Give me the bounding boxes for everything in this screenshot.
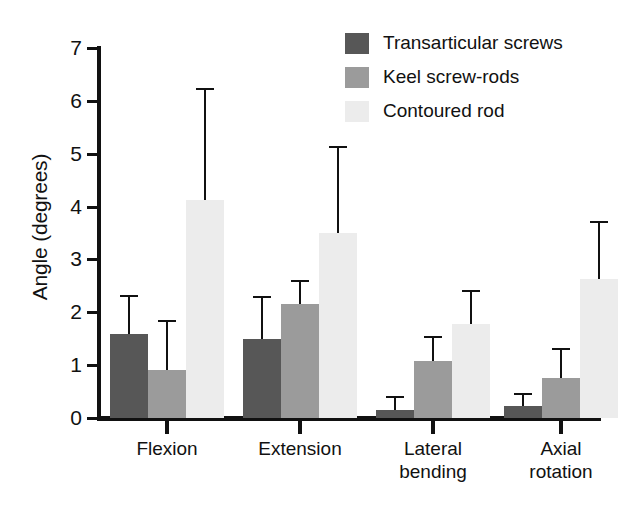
y-tick-mark bbox=[87, 206, 98, 209]
x-tick-mark bbox=[431, 420, 435, 434]
bar bbox=[281, 304, 319, 418]
x-tick-mark bbox=[559, 420, 563, 434]
error-bar-cap bbox=[386, 396, 404, 398]
x-category-label: Lateral bending bbox=[363, 437, 503, 483]
legend-label: Keel screw-rods bbox=[383, 66, 519, 88]
bar bbox=[452, 324, 490, 418]
y-tick-label: 2 bbox=[42, 301, 82, 322]
y-tick-label: 5 bbox=[42, 143, 82, 164]
error-bar-cap bbox=[291, 280, 309, 282]
error-bar-cap bbox=[552, 348, 570, 350]
bar bbox=[504, 406, 542, 418]
legend-item: Transarticular screws bbox=[345, 28, 563, 58]
legend-swatch bbox=[345, 67, 369, 88]
error-bar-stem bbox=[394, 396, 396, 410]
bar bbox=[414, 361, 452, 418]
y-tick-label: 6 bbox=[42, 90, 82, 111]
error-bar-cap bbox=[120, 295, 138, 297]
legend-item: Contoured rod bbox=[345, 96, 563, 126]
x-tick-mark bbox=[165, 420, 169, 434]
y-tick-label: 4 bbox=[42, 196, 82, 217]
bar bbox=[376, 410, 414, 418]
bar bbox=[542, 378, 580, 418]
error-bar-stem bbox=[299, 280, 301, 305]
y-tick-mark bbox=[87, 417, 98, 420]
bar bbox=[243, 339, 281, 418]
error-bar-stem bbox=[598, 221, 600, 279]
x-category-label: Flexion bbox=[97, 437, 237, 460]
error-bar-cap bbox=[196, 88, 214, 90]
legend: Transarticular screwsKeel screw-rodsCont… bbox=[345, 28, 563, 130]
error-bar-cap bbox=[514, 393, 532, 395]
error-bar-stem bbox=[204, 88, 206, 200]
error-bar-cap bbox=[462, 290, 480, 292]
error-bar-stem bbox=[166, 320, 168, 370]
error-bar-cap bbox=[424, 336, 442, 338]
legend-item: Keel screw-rods bbox=[345, 62, 563, 92]
legend-label: Transarticular screws bbox=[383, 32, 563, 54]
legend-swatch bbox=[345, 101, 369, 122]
y-tick-label: 7 bbox=[42, 37, 82, 58]
y-tick-mark bbox=[87, 153, 98, 156]
legend-swatch bbox=[345, 33, 369, 54]
x-category-label: Axial rotation bbox=[491, 437, 622, 483]
y-tick-mark bbox=[87, 258, 98, 261]
error-bar-stem bbox=[432, 336, 434, 361]
bar bbox=[319, 233, 357, 418]
x-category-label: Extension bbox=[230, 437, 370, 460]
bar bbox=[580, 279, 618, 418]
bar bbox=[148, 370, 186, 418]
error-bar-stem bbox=[560, 348, 562, 378]
error-bar-stem bbox=[337, 146, 339, 233]
error-bar-cap bbox=[158, 320, 176, 322]
y-tick-mark bbox=[87, 311, 98, 314]
y-tick-label: 3 bbox=[42, 248, 82, 269]
error-bar-cap bbox=[253, 296, 271, 298]
bar bbox=[110, 334, 148, 418]
y-tick-label: 0 bbox=[42, 407, 82, 428]
bar bbox=[186, 200, 224, 418]
legend-label: Contoured rod bbox=[383, 100, 504, 122]
y-tick-label: 1 bbox=[42, 354, 82, 375]
y-tick-mark bbox=[87, 47, 98, 50]
error-bar-stem bbox=[261, 296, 263, 338]
error-bar-cap bbox=[329, 146, 347, 148]
error-bar-stem bbox=[470, 290, 472, 324]
error-bar-cap bbox=[590, 221, 608, 223]
y-tick-mark bbox=[87, 100, 98, 103]
error-bar-stem bbox=[128, 295, 130, 334]
x-tick-mark bbox=[298, 420, 302, 434]
y-tick-mark bbox=[87, 364, 98, 367]
